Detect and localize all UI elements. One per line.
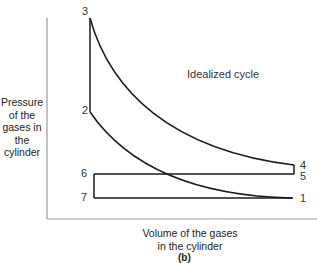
- x-axis-label-line: in the cylinder: [120, 240, 260, 253]
- point-label-3: 3: [82, 5, 88, 18]
- y-axis-label-line: gases in: [0, 121, 44, 134]
- y-axis-label-line: of the: [0, 109, 44, 122]
- compression-curve-1-2: [90, 112, 292, 198]
- x-axis-label: Volume of the gases in the cylinder: [120, 227, 260, 252]
- y-axis-label-line: the: [0, 134, 44, 147]
- y-axis-label: Pressure of the gases in the cylinder: [0, 96, 44, 159]
- point-label-1: 1: [300, 192, 306, 205]
- point-label-2: 2: [82, 104, 88, 117]
- y-axis-label-line: cylinder: [0, 146, 44, 159]
- point-label-5: 5: [300, 170, 306, 183]
- diagram-title: Idealized cycle: [187, 68, 259, 80]
- subfigure-label: (b): [178, 252, 191, 263]
- x-axis-label-line: Volume of the gases: [120, 227, 260, 240]
- point-label-7: 7: [81, 191, 87, 204]
- y-axis-label-line: Pressure: [0, 96, 44, 109]
- point-label-6: 6: [81, 167, 87, 180]
- expansion-curve-3-4: [90, 18, 294, 165]
